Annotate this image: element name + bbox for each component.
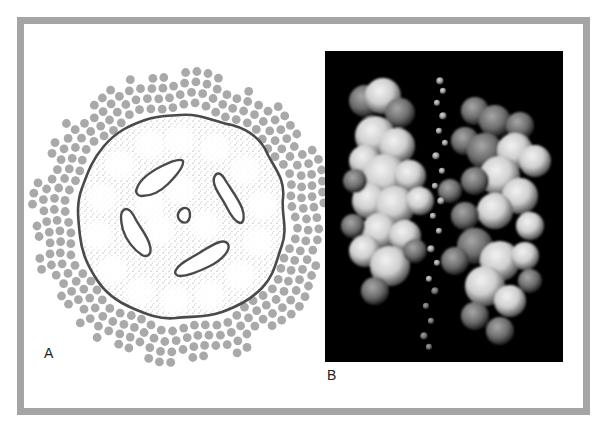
- panel-label-a: A: [44, 346, 53, 360]
- panel-b-image: [325, 51, 563, 362]
- protein-surface-rendering: [325, 51, 563, 362]
- panel-label-b: B: [327, 368, 336, 382]
- pore-center: [178, 208, 190, 223]
